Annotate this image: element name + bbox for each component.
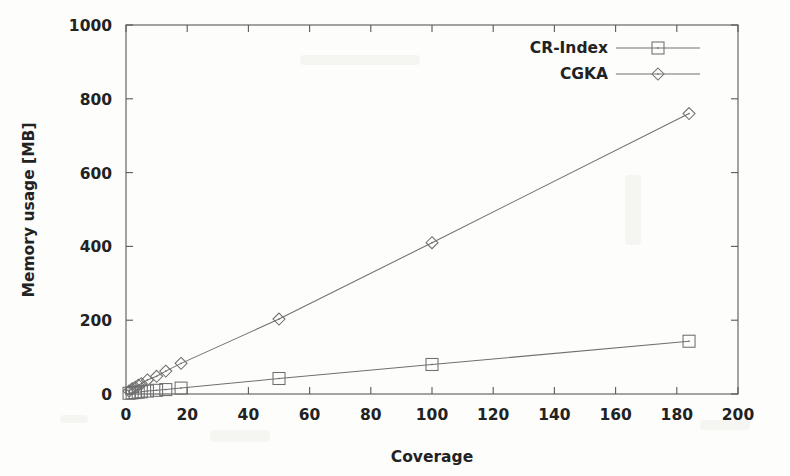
memory-usage-vs-coverage-chart: 0204060801001201401601802000200400600800…: [0, 0, 790, 476]
legend-label: CGKA: [560, 65, 608, 83]
data-point-marker: [683, 108, 695, 120]
y-tick-label: 800: [80, 91, 113, 109]
x-tick-label: 200: [722, 406, 755, 424]
legend-entry: CGKA: [560, 65, 700, 83]
data-point-marker: [426, 237, 438, 249]
legend-entry: CR-Index: [530, 39, 700, 57]
plot-frame: [126, 25, 738, 394]
x-tick-label: 120: [477, 406, 510, 424]
scan-artifact: [625, 175, 641, 245]
scan-artifact: [300, 55, 420, 65]
series-cgka: [123, 108, 695, 397]
y-axis-title: Memory usage [MB]: [20, 122, 38, 297]
scan-artifact: [210, 430, 270, 442]
axis-ticks: [126, 25, 738, 394]
y-tick-label: 200: [80, 312, 113, 330]
x-tick-label: 180: [661, 406, 694, 424]
data-series-layer: [123, 108, 695, 400]
axis-tick-labels: 0204060801001201401601802000200400600800…: [69, 17, 755, 424]
x-tick-label: 0: [121, 406, 132, 424]
x-tick-label: 60: [299, 406, 321, 424]
y-tick-label: 1000: [69, 17, 112, 35]
x-tick-label: 100: [416, 406, 449, 424]
x-axis-title: Coverage: [391, 448, 473, 466]
chart-figure: 0204060801001201401601802000200400600800…: [0, 0, 790, 476]
y-tick-label: 0: [101, 386, 112, 404]
y-tick-label: 400: [80, 238, 113, 256]
x-tick-label: 40: [238, 406, 260, 424]
chart-legend: CR-IndexCGKA: [530, 39, 700, 83]
series-cr-index: [123, 335, 695, 399]
data-point-marker: [175, 357, 187, 369]
series-line: [129, 114, 689, 391]
x-tick-label: 140: [538, 406, 571, 424]
x-tick-label: 160: [599, 406, 632, 424]
scan-artifact: [60, 415, 88, 423]
y-tick-label: 600: [80, 165, 113, 183]
plot-border: [126, 25, 738, 394]
data-point-marker: [273, 313, 285, 325]
x-tick-label: 20: [176, 406, 198, 424]
x-tick-label: 80: [360, 406, 382, 424]
legend-label: CR-Index: [530, 39, 608, 57]
